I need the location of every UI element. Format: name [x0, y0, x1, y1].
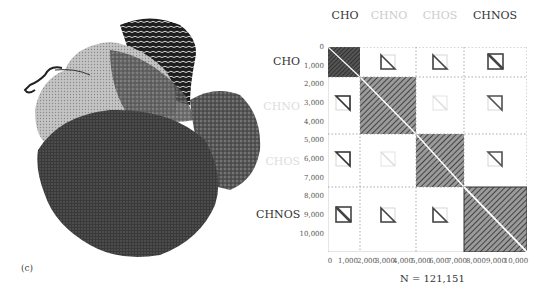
- column-label-cho: CHO: [331, 9, 359, 22]
- column-label-chos: CHOS: [418, 9, 462, 22]
- column-label-chno: CHNO: [365, 9, 413, 22]
- x-tick: 0: [328, 257, 332, 265]
- x-tick: 7,000: [447, 257, 467, 265]
- y-tick: 5,000: [290, 136, 324, 144]
- diagonal-block-chos: [416, 134, 464, 187]
- y-tick: 8,000: [290, 192, 324, 200]
- y-tick: 1,000: [290, 62, 324, 70]
- column-label-chnos: CHNOS: [470, 9, 520, 22]
- diagonal-block-chno: [360, 77, 416, 134]
- y-tick: 10,000: [290, 230, 324, 238]
- x-tick: 10,000: [504, 257, 529, 265]
- x-tick: 1,000: [338, 257, 358, 265]
- network-3d-visualization: [0, 0, 280, 295]
- adjacency-matrix: [328, 47, 527, 252]
- y-tick: 4,000: [290, 118, 324, 126]
- panel-label: (c): [21, 263, 33, 273]
- diagonal-block-chnos: [464, 187, 527, 252]
- n-count-label: N = 121,151: [400, 273, 465, 284]
- y-tick: 2,000: [290, 80, 324, 88]
- y-tick: 0: [290, 43, 324, 51]
- region-chnos: [37, 110, 218, 257]
- y-tick: 6,000: [290, 155, 324, 163]
- y-tick: 9,000: [290, 211, 324, 219]
- diagonal-block-cho: [328, 47, 360, 77]
- x-tick: 8,000: [466, 257, 486, 265]
- y-tick: 3,000: [290, 99, 324, 107]
- y-tick: 7,000: [290, 174, 324, 182]
